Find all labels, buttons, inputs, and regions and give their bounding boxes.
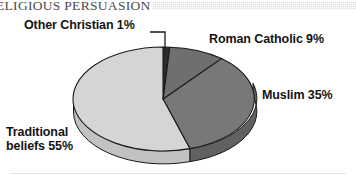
pie-label-roman-catholic: Roman Catholic 9%: [209, 33, 324, 47]
pie-chart: Other Christian 1% Roman Catholic 9% Mus…: [0, 0, 356, 180]
pie-label-other-christian: Other Christian 1%: [24, 19, 135, 33]
pie-label-traditional-line2: beliefs 55%: [6, 139, 73, 153]
footer-divider: [10, 173, 346, 174]
pie-label-traditional-line1: Traditional: [6, 125, 68, 139]
pie-label-muslim: Muslim 35%: [262, 89, 333, 103]
pie-label-traditional: Traditional beliefs 55%: [6, 126, 116, 153]
